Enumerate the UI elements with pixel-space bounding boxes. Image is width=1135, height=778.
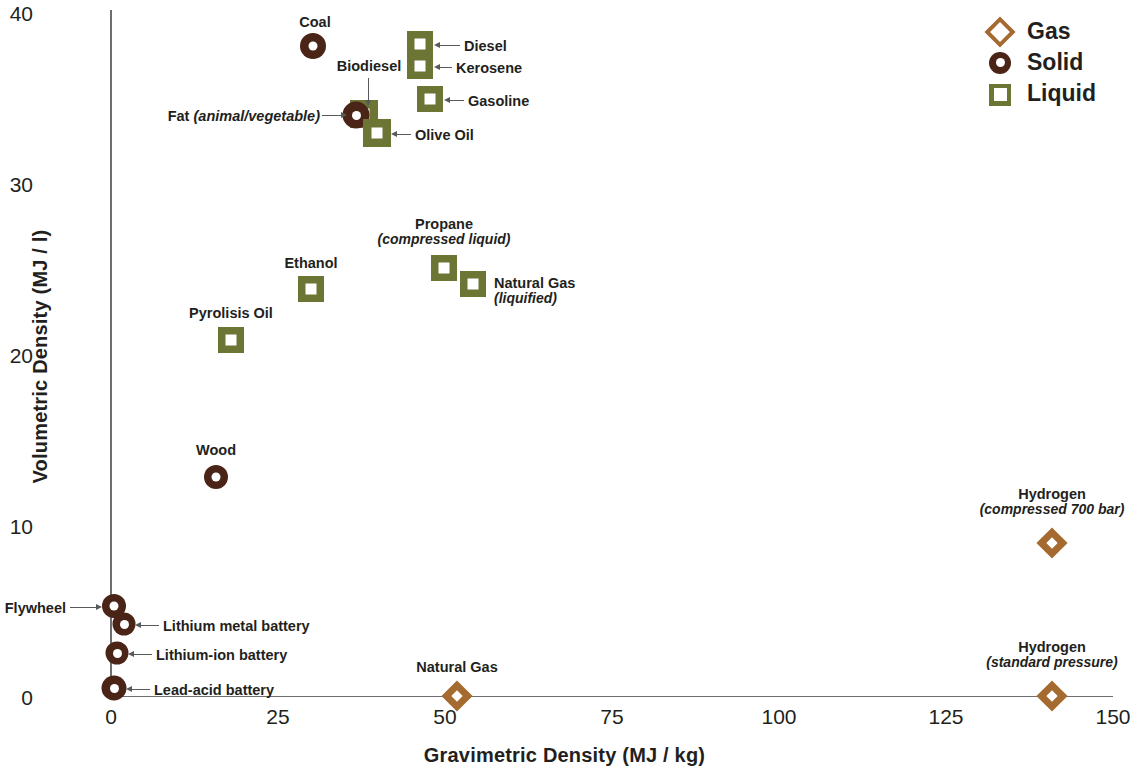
label-kerosene: Kerosene <box>456 60 522 76</box>
label-lead-acid-battery: Lead-acid battery <box>154 682 274 698</box>
x-tick-125: 125 <box>911 706 981 727</box>
marker-coal[interactable] <box>300 33 326 59</box>
x-tick-75: 75 <box>577 706 647 727</box>
marker-hydrogen-standard[interactable] <box>1036 680 1067 711</box>
label-pyrolisis-oil: Pyrolisis Oil <box>189 305 273 321</box>
marker-natural-gas-liquified[interactable] <box>460 271 486 297</box>
label-propane-main: Propane <box>415 216 473 232</box>
legend: Gas Solid Liquid <box>985 16 1096 109</box>
label-hydrogen-compressed-sub: (compressed 700 bar) <box>980 502 1125 518</box>
legend-item-gas[interactable]: Gas <box>985 16 1096 47</box>
leader-fat <box>322 115 341 116</box>
label-hydrogen-standard-main: Hydrogen <box>1018 639 1086 655</box>
legend-label-solid: Solid <box>1027 51 1083 74</box>
marker-kerosene[interactable] <box>407 53 433 79</box>
label-hydrogen-compressed-main: Hydrogen <box>1018 486 1086 502</box>
legend-item-liquid[interactable]: Liquid <box>985 78 1096 109</box>
marker-lithium-ion-battery[interactable] <box>106 642 129 665</box>
label-biodiesel: Biodiesel <box>337 58 401 74</box>
leader-arrow-biodiesel <box>365 100 371 106</box>
x-tick-25: 25 <box>243 706 313 727</box>
gas-diamond-icon <box>985 17 1015 47</box>
label-diesel: Diesel <box>464 38 507 54</box>
solid-circle-icon <box>985 48 1015 78</box>
leader-arrow-olive-oil <box>391 131 397 137</box>
marker-ethanol[interactable] <box>298 276 324 302</box>
leader-arrow-kerosene <box>434 64 440 70</box>
x-tick-100: 100 <box>744 706 814 727</box>
marker-lead-acid-battery[interactable] <box>102 676 127 701</box>
y-axis-title: Volumetric Density (MJ / l) <box>29 147 52 567</box>
marker-pyrolisis-oil[interactable] <box>218 327 244 353</box>
label-hydrogen-standard-sub: (standard pressure) <box>986 655 1117 671</box>
label-hydrogen-standard: Hydrogen(standard pressure) <box>986 639 1117 671</box>
legend-item-solid[interactable]: Solid <box>985 47 1096 78</box>
leader-arrow-fat <box>341 112 347 118</box>
label-lithium-ion-battery: Lithium-ion battery <box>156 647 287 663</box>
label-hydrogen-compressed: Hydrogen(compressed 700 bar) <box>980 486 1125 518</box>
label-natural-gas-liquified-main: Natural Gas <box>494 275 575 291</box>
x-axis-title: Gravimetric Density (MJ / kg) <box>0 744 1129 767</box>
label-olive-oil: Olive Oil <box>415 127 474 143</box>
label-natural-gas-liquified: Natural Gas(liquified) <box>494 275 575 307</box>
marker-olive-oil[interactable] <box>363 119 391 147</box>
label-lithium-metal-battery: Lithium metal battery <box>163 618 310 634</box>
x-tick-50: 50 <box>410 706 480 727</box>
marker-propane[interactable] <box>431 255 457 281</box>
x-tick-150: 150 <box>1078 706 1135 727</box>
legend-label-gas: Gas <box>1027 20 1070 43</box>
y-tick-40: 40 <box>0 3 33 24</box>
leader-biodiesel <box>368 78 369 101</box>
label-coal: Coal <box>299 14 330 30</box>
label-natural-gas-liquified-sub: (liquified) <box>494 291 575 307</box>
leader-flywheel <box>70 607 96 608</box>
label-ethanol: Ethanol <box>284 255 337 271</box>
leader-arrow-lithium-metal <box>135 622 141 628</box>
x-tick-0: 0 <box>76 706 146 727</box>
label-wood: Wood <box>196 442 236 458</box>
marker-wood[interactable] <box>204 465 228 489</box>
label-flywheel: Flywheel <box>5 600 66 616</box>
label-gasoline: Gasoline <box>468 93 529 109</box>
label-fat: Fat (animal/vegetable) <box>168 108 320 124</box>
label-fat-sub: (animal/vegetable) <box>193 108 320 124</box>
label-natural-gas: Natural Gas <box>416 659 497 675</box>
leader-arrow-gasoline <box>444 97 450 103</box>
label-propane: Propane(compressed liquid) <box>377 216 510 248</box>
leader-arrow-diesel <box>434 42 440 48</box>
leader-arrow-lithium-ion <box>128 651 134 657</box>
label-propane-sub: (compressed liquid) <box>377 232 510 248</box>
leader-arrow-lead-acid <box>126 686 132 692</box>
leader-arrow-flywheel <box>96 604 102 610</box>
legend-label-liquid: Liquid <box>1027 82 1096 105</box>
marker-lithium-metal-battery[interactable] <box>113 613 136 636</box>
marker-hydrogen-compressed[interactable] <box>1036 527 1067 558</box>
liquid-square-icon <box>985 79 1015 109</box>
y-tick-0: 0 <box>0 687 33 708</box>
marker-gasoline[interactable] <box>417 86 443 112</box>
label-fat-main: Fat <box>168 108 190 124</box>
